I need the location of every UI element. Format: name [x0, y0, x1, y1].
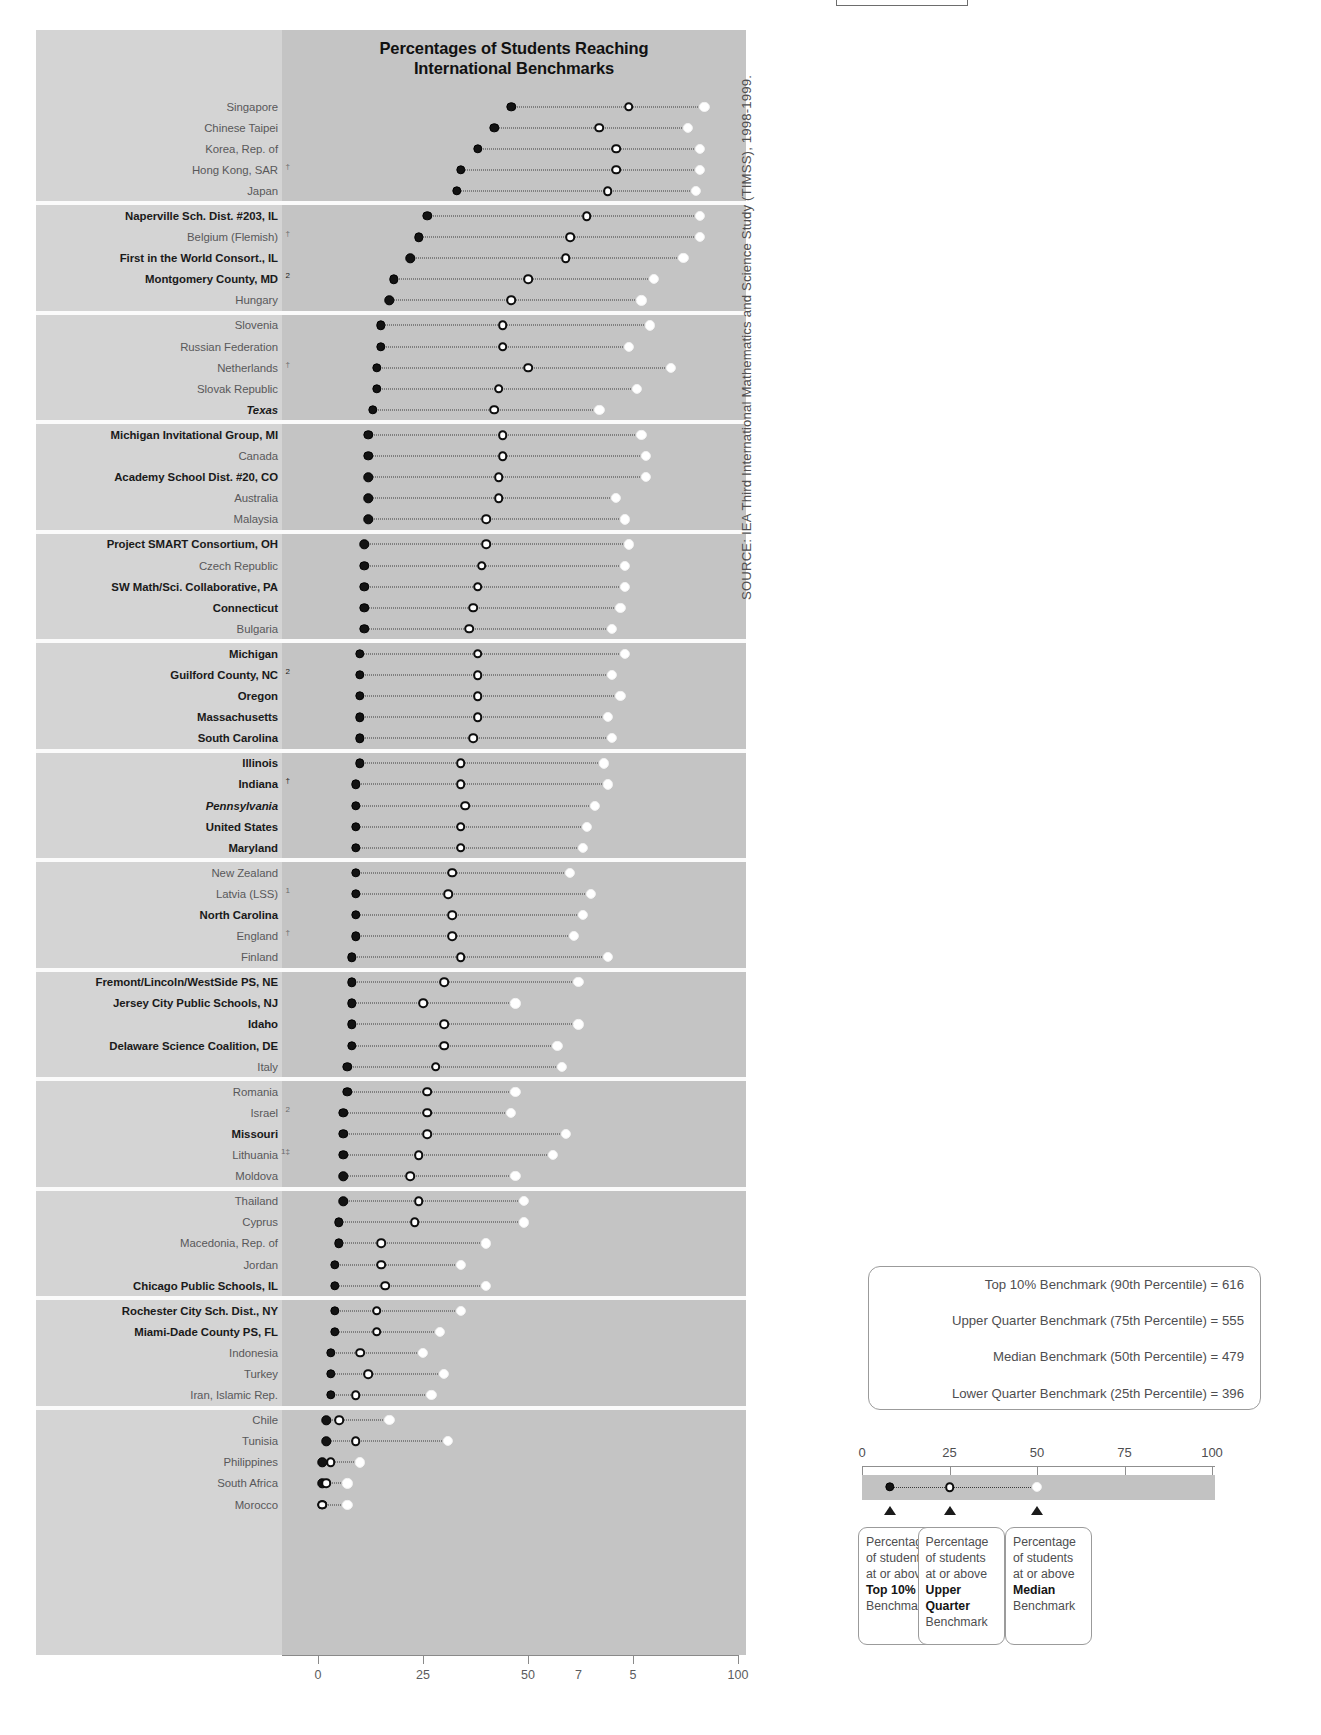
legend-tick-label: 25 — [942, 1445, 956, 1460]
top10-marker — [364, 494, 373, 503]
upper-quarter-marker — [498, 342, 508, 352]
upper-quarter-marker — [351, 1436, 361, 1446]
chart-row: South Carolina — [36, 728, 746, 749]
median-marker — [611, 493, 621, 503]
chart-row: Guilford County, NC2 — [36, 664, 746, 685]
row-plot-area — [282, 1452, 746, 1473]
row-plot-area — [282, 1166, 746, 1187]
top10-marker — [364, 515, 373, 524]
median-marker — [552, 1040, 562, 1050]
chart-row: Michigan — [36, 643, 746, 664]
chart-row: Missouri — [36, 1123, 746, 1144]
row-label: Netherlands — [217, 362, 278, 374]
chart-title-line2: International Benchmarks — [282, 58, 746, 78]
chart-row: Morocco — [36, 1494, 746, 1515]
median-marker — [384, 1415, 394, 1425]
row-label: Czech Republic — [199, 560, 278, 572]
top10-marker — [343, 1062, 352, 1071]
row-connector-line — [331, 1373, 444, 1374]
row-plot-area — [282, 467, 746, 488]
median-marker — [418, 1348, 428, 1358]
chart-row: Idaho — [36, 1014, 746, 1035]
row-label: Chinese Taipei — [204, 122, 278, 134]
row-plot-area — [282, 424, 746, 445]
upper-quarter-marker — [477, 561, 487, 571]
row-connector-line — [356, 826, 587, 827]
x-axis-tick — [528, 1655, 529, 1664]
row-plot-area — [282, 686, 746, 707]
chart-row: Massachusetts — [36, 707, 746, 728]
upper-quarter-marker — [506, 296, 516, 306]
chart-row: Belgium (Flemish)† — [36, 227, 746, 248]
row-connector-line — [360, 717, 608, 718]
row-plot-area — [282, 1473, 746, 1494]
chart-row: Lithuania1‡ — [36, 1145, 746, 1166]
row-connector-line — [373, 409, 600, 410]
median-marker — [506, 1108, 516, 1118]
median-marker — [636, 430, 646, 440]
upper-quarter-marker — [464, 624, 474, 634]
row-label: Indiana — [238, 778, 278, 790]
chart-row: Macedonia, Rep. of — [36, 1233, 746, 1254]
upper-quarter-marker — [422, 1087, 432, 1097]
row-label: Bulgaria — [237, 623, 278, 635]
top10-marker — [343, 1087, 352, 1096]
top10-marker — [355, 649, 364, 658]
median-marker — [607, 624, 617, 634]
row-label: Belgium (Flemish) — [187, 231, 278, 243]
row-connector-line — [368, 519, 624, 520]
row-label: South Africa — [217, 1477, 278, 1489]
row-connector-line — [356, 893, 591, 894]
chart-row: Malaysia — [36, 509, 746, 530]
median-marker — [548, 1150, 558, 1160]
legend-tick — [862, 1466, 863, 1475]
chart-row: Japan — [36, 180, 746, 201]
row-plot-area — [282, 993, 746, 1014]
chart-row: Turkey — [36, 1363, 746, 1384]
row-connector-line — [356, 872, 570, 873]
x-axis-tick — [738, 1655, 739, 1664]
upper-quarter-marker — [414, 1196, 424, 1206]
chart-rows: SingaporeChinese TaipeiKorea, Rep. ofHon… — [36, 96, 746, 1652]
median-marker — [645, 320, 655, 330]
row-label: Jersey City Public Schools, NJ — [113, 997, 278, 1009]
chart-row: Texas — [36, 399, 746, 420]
chart-row: Finland — [36, 947, 746, 968]
callout-line-3: at or above — [926, 1566, 998, 1582]
median-marker — [510, 1171, 520, 1181]
row-label: North Carolina — [200, 909, 278, 921]
chart-row: Project SMART Consortium, OH — [36, 534, 746, 555]
median-marker — [599, 758, 609, 768]
row-plot-area — [282, 774, 746, 795]
chart-row: Cyprus — [36, 1212, 746, 1233]
upper-quarter-marker — [322, 1479, 332, 1489]
row-plot-area — [282, 180, 746, 201]
chart-row: Philippines — [36, 1452, 746, 1473]
legend-scale: 0255075100 — [858, 1448, 1258, 1526]
x-axis-tick — [633, 1655, 634, 1664]
chart-row: Michigan Invitational Group, MI — [36, 424, 746, 445]
chart-row: Slovenia — [36, 315, 746, 336]
row-plot-area — [282, 1191, 746, 1212]
top10-marker — [347, 999, 356, 1008]
chart-row: Illinois — [36, 753, 746, 774]
row-label: Italy — [257, 1061, 278, 1073]
row-label: Missouri — [232, 1128, 278, 1140]
upper-quarter-marker — [624, 102, 634, 112]
row-plot-area — [282, 904, 746, 925]
row-connector-line — [356, 915, 583, 916]
chart-row: Fremont/Lincoln/WestSide PS, NE — [36, 972, 746, 993]
upper-quarter-marker — [372, 1306, 382, 1316]
median-marker — [456, 1306, 466, 1316]
row-plot-area — [282, 446, 746, 467]
chart-row: Czech Republic — [36, 555, 746, 576]
top10-marker — [414, 232, 423, 241]
callout-line-2: of students — [926, 1550, 998, 1566]
median-marker — [683, 123, 693, 133]
top10-marker — [422, 211, 431, 220]
median-marker — [561, 1129, 571, 1139]
upper-quarter-marker — [473, 582, 483, 592]
median-marker — [603, 712, 613, 722]
median-marker — [607, 670, 617, 680]
row-label: Romania — [233, 1086, 278, 1098]
